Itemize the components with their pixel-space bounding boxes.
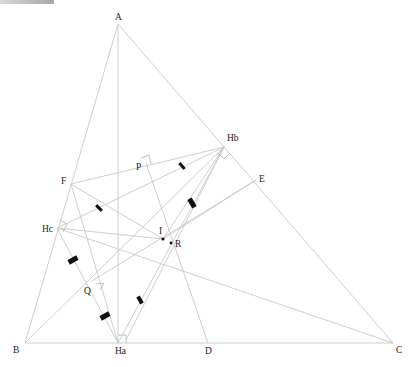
altitudes [25,24,393,343]
label-f: F [61,176,66,186]
altitude-c [57,228,393,343]
altitude-b [25,147,224,343]
label-i: I [159,226,162,236]
line-q-e [92,180,256,281]
line-p-d [146,163,208,343]
label-b: B [13,345,19,355]
label-p: P [136,162,141,172]
label-ha: Ha [115,346,127,356]
line-f-hb [71,147,224,184]
tick-mark [95,204,103,212]
line-hb-ha-1 [118,147,224,343]
label-r: R [175,239,182,249]
point-markers [161,237,172,244]
right-angle-q [96,283,104,290]
label-c: C [396,345,402,355]
geometry-diagram: A B C D E F Ha Hb Hc P I R Q [0,0,415,367]
point-r [170,242,173,245]
tick-mark [67,255,78,264]
label-q: Q [84,286,91,296]
label-a: A [115,12,122,22]
triangle-abc [25,24,393,343]
label-hc: Hc [42,224,53,234]
line-hb-i [163,147,224,239]
right-angle-p [141,155,151,164]
label-d: D [205,346,212,356]
label-hb: Hb [227,133,239,143]
point-i [161,237,164,240]
side-ac [118,24,393,343]
label-e: E [259,174,265,184]
construction-lines [57,147,256,343]
